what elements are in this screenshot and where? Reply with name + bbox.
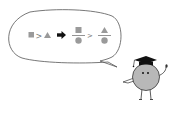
- square-icon: [76, 27, 82, 33]
- illustration: > >: [0, 0, 177, 114]
- greater-than-symbol-1: >: [36, 32, 43, 41]
- eye-left: [142, 72, 144, 74]
- character-body: [133, 64, 160, 91]
- greater-than-symbol-2: >: [87, 32, 93, 40]
- circle-icon: [75, 37, 81, 43]
- square-icon: [29, 32, 35, 38]
- professor-character: [123, 56, 168, 100]
- eye-right: [147, 72, 149, 74]
- circle-icon: [101, 37, 107, 43]
